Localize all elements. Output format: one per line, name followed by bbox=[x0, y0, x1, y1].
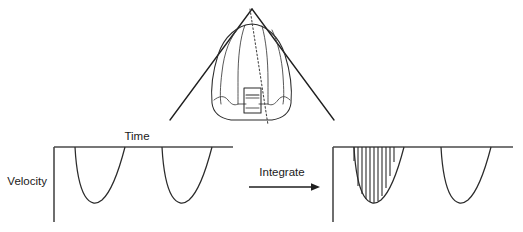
angle-guide-left-line bbox=[170, 9, 252, 120]
tooth-crown-outline bbox=[212, 24, 292, 120]
integrate-operation-group: Integrate bbox=[249, 166, 320, 191]
figure-root: Time Velocity Integrate bbox=[0, 0, 523, 232]
tooth-right-lobe-line bbox=[272, 30, 284, 104]
figure-canvas: Time Velocity Integrate bbox=[0, 0, 523, 232]
velocity-axis-label: Velocity bbox=[7, 175, 47, 187]
integration-hatch-group bbox=[354, 147, 394, 203]
tooth-cervical-line-right bbox=[259, 97, 290, 105]
time-axis-label: Time bbox=[124, 130, 149, 142]
chart-velocity-before: Time Velocity bbox=[7, 130, 233, 222]
left-chart-pulse-2-curve bbox=[162, 147, 212, 203]
tooth-cervical-line bbox=[214, 97, 246, 105]
chart-velocity-after bbox=[333, 147, 513, 222]
integrate-arrow-head bbox=[311, 183, 320, 191]
bracket-outline bbox=[244, 88, 261, 113]
left-chart-pulse-1-curve bbox=[75, 147, 125, 203]
right-chart-pulse-2-curve bbox=[441, 147, 491, 203]
integrate-label: Integrate bbox=[259, 166, 304, 178]
tooth-diagram-group bbox=[170, 9, 334, 125]
